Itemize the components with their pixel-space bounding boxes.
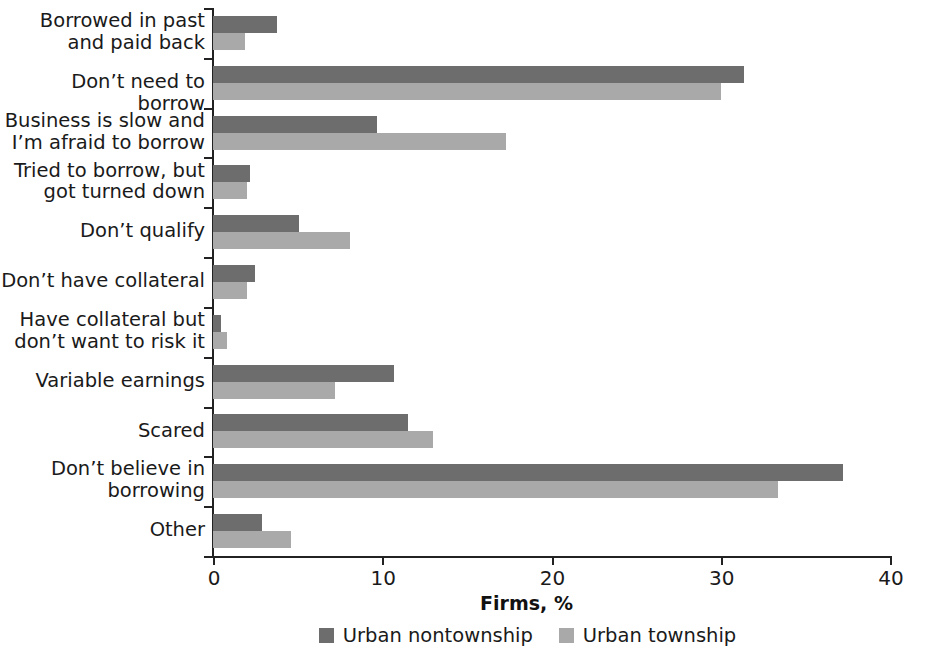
category-label-line: Other [0,519,205,541]
y-axis-tick [204,506,213,508]
bar [213,66,744,83]
y-axis-tick [204,456,213,458]
y-axis-category-label: Scared [0,420,205,442]
category-label-line: got turned down [0,181,205,203]
category-label-line: Don’t have collateral [0,270,205,292]
bar [213,265,255,282]
category-label-line: Have collateral but [0,309,205,331]
bar [213,481,778,498]
x-axis-tick [890,556,892,565]
category-label-line: Variable earnings [0,370,205,392]
legend-item: Urban nontownship [319,624,533,647]
y-axis-category-label: Have collateral butdon’t want to risk it [0,309,205,353]
y-axis-tick [204,257,213,259]
bar-chart: Borrowed in pastand paid backDon’t need … [0,0,925,654]
category-label-line: Scared [0,420,205,442]
y-axis-tick [204,407,213,409]
bar [213,431,433,448]
x-axis-tick [382,556,384,565]
y-axis-category-label: Tried to borrow, butgot turned down [0,160,205,204]
y-axis-category-label: Variable earnings [0,370,205,392]
y-axis-tick [204,357,213,359]
category-label-line: Business is slow and [0,110,205,132]
bar [213,282,247,299]
category-label-line: and paid back [0,32,205,54]
bar [213,16,277,33]
bar [213,116,377,133]
bar [213,514,262,531]
y-axis-tick [204,556,213,558]
x-axis-title: Firms, % [0,592,925,614]
bar [213,332,227,349]
bar [213,33,245,50]
category-label-line: Don’t qualify [0,220,205,242]
bar [213,83,721,100]
y-axis-tick [204,157,213,159]
bar [213,215,299,232]
legend-item: Urban township [559,624,736,647]
bar [213,315,221,332]
x-axis-tick [721,556,723,565]
x-axis-tick-label: 30 [692,566,752,590]
bar [213,382,335,399]
bar [213,165,250,182]
y-axis-tick [204,108,213,110]
category-label-line: borrowing [0,480,205,502]
bar [213,133,506,150]
x-axis-tick-label: 20 [523,566,583,590]
x-axis-tick [213,556,215,565]
category-label-line: Don’t need to borrow [0,71,205,115]
x-axis-tick [552,556,554,565]
y-axis-category-label: Business is slow andI’m afraid to borrow [0,110,205,154]
x-axis-tick-label: 0 [184,566,244,590]
y-axis-tick [204,58,213,60]
y-axis-category-label: Borrowed in pastand paid back [0,10,205,54]
category-label-line: Tried to borrow, but [0,160,205,182]
bar [213,182,247,199]
x-axis-tick-label: 40 [861,566,921,590]
category-label-line: don’t want to risk it [0,331,205,353]
category-label-line: Don’t believe in [0,458,205,480]
bar [213,414,408,431]
y-axis-tick [204,307,213,309]
chart-legend: Urban nontownshipUrban township [0,624,925,647]
x-axis-tick-label: 10 [353,566,413,590]
plot-area [213,8,890,556]
y-axis-category-label: Other [0,519,205,541]
legend-swatch-icon [559,628,574,643]
category-label-line: I’m afraid to borrow [0,132,205,154]
y-axis-tick [204,207,213,209]
legend-swatch-icon [319,628,334,643]
y-axis-category-label: Don’t qualify [0,220,205,242]
bar [213,365,394,382]
legend-label: Urban nontownship [343,624,533,647]
y-axis-category-label: Don’t have collateral [0,270,205,292]
y-axis-tick [204,8,213,10]
y-axis-category-label: Don’t believe inborrowing [0,458,205,502]
legend-label: Urban township [583,624,736,647]
category-label-line: Borrowed in past [0,10,205,32]
bar [213,232,350,249]
bar [213,531,291,548]
y-axis-category-label: Don’t need to borrow [0,71,205,115]
bar [213,464,843,481]
